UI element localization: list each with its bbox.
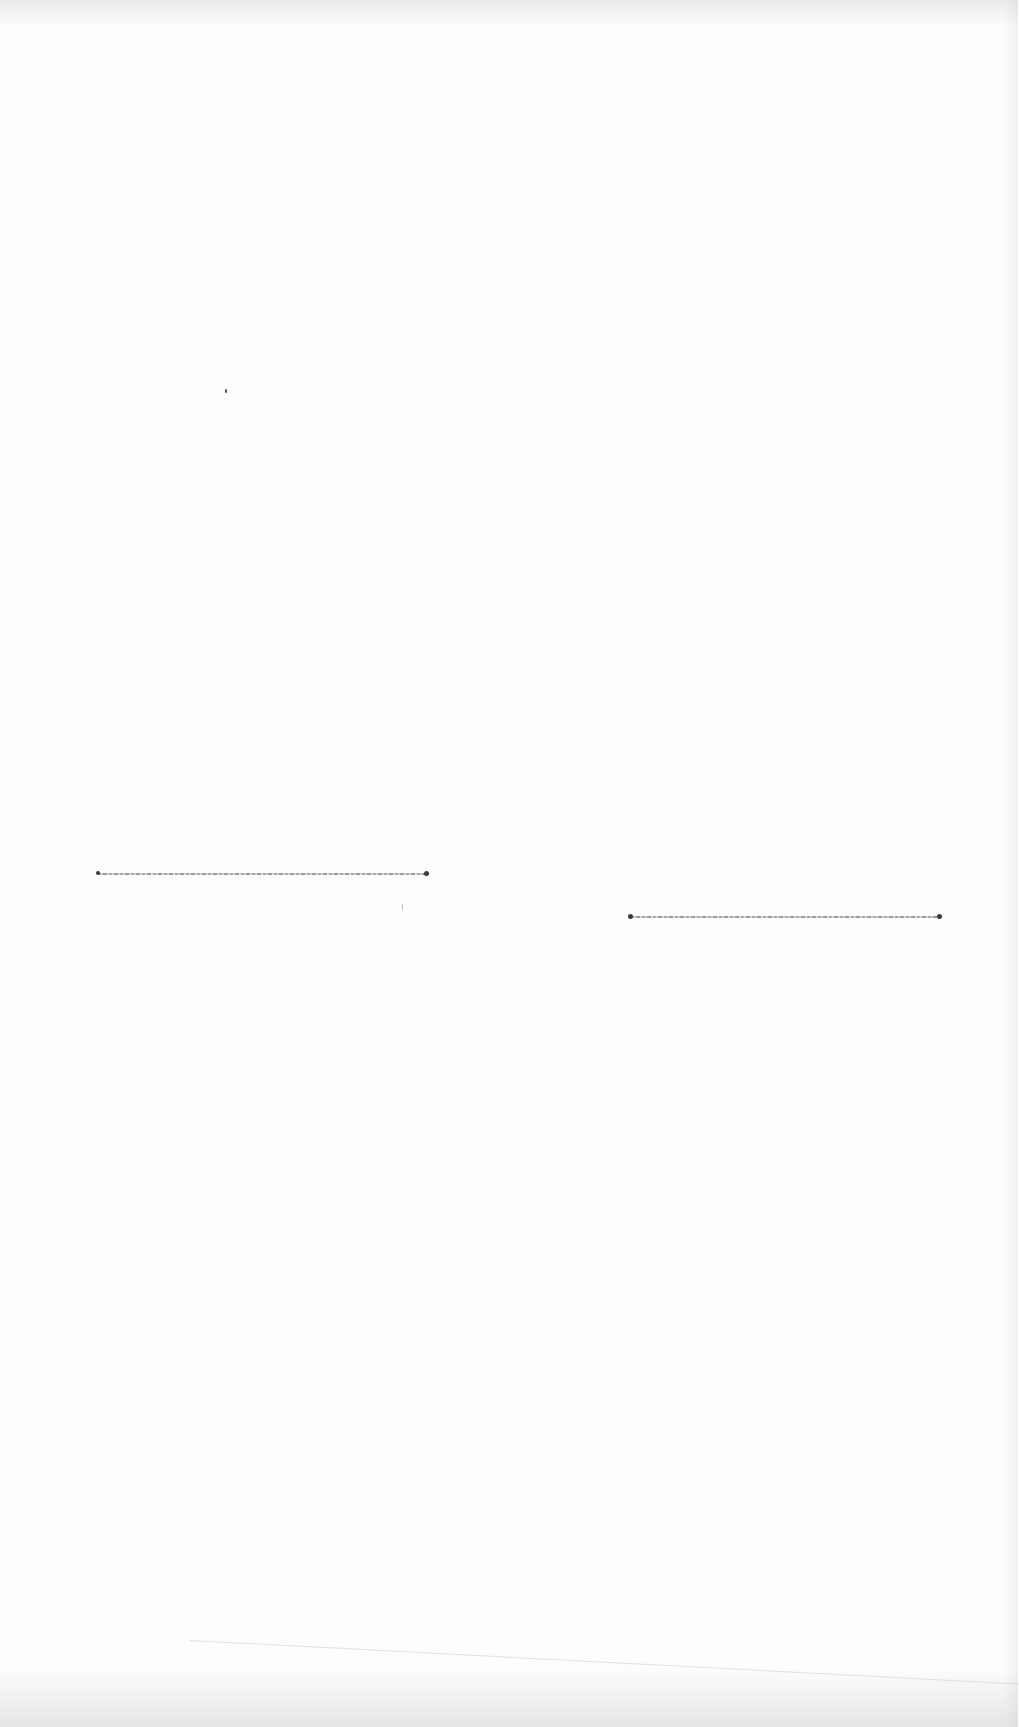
pencil-dot	[225, 389, 227, 393]
pencil-line-right	[631, 916, 940, 918]
line-endpoint-right-start	[628, 914, 633, 919]
faint-bottom-stroke	[190, 1640, 1019, 1684]
line-endpoint-left-end	[424, 871, 429, 876]
line-endpoint-right-end	[937, 914, 942, 919]
pencil-tick	[402, 904, 403, 910]
line-endpoint-left-start	[96, 871, 100, 875]
pencil-line-left	[98, 873, 427, 875]
